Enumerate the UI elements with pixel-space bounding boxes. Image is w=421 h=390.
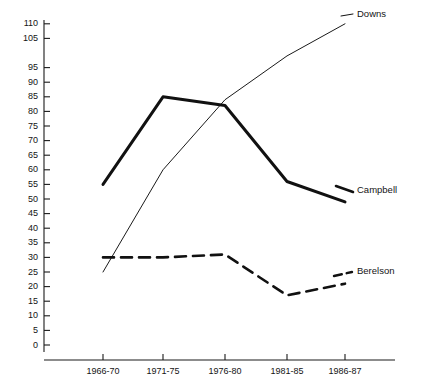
x-tick-label: 1986-87 [305, 367, 385, 376]
series-line-downs [103, 24, 345, 272]
y-tick-label: 60 [0, 165, 38, 174]
series-leader-downs [341, 14, 353, 16]
y-tick-label: 80 [0, 107, 38, 116]
y-tick-label: 55 [0, 180, 38, 189]
series-line-campbell [103, 97, 345, 202]
y-axis-ticks [44, 24, 50, 345]
y-tick-label: 15 [0, 297, 38, 306]
y-tick-label: 0 [0, 341, 38, 350]
y-tick-label: 75 [0, 122, 38, 131]
series-line-berelson [103, 254, 345, 295]
y-tick-label: 45 [0, 209, 38, 218]
x-axis [44, 354, 395, 360]
y-tick-label: 20 [0, 282, 38, 291]
series-leader-berelson [334, 272, 352, 276]
chart-plot-area [0, 0, 421, 390]
series-label-berelson: Berelson [357, 266, 395, 276]
y-tick-label: 95 [0, 63, 38, 72]
data-series-group [103, 14, 353, 295]
y-tick-label: 5 [0, 326, 38, 335]
y-tick-label: 50 [0, 195, 38, 204]
y-tick-label: 10 [0, 311, 38, 320]
y-tick-label: 35 [0, 238, 38, 247]
series-leader-campbell [336, 186, 353, 192]
y-tick-label: 65 [0, 151, 38, 160]
y-tick-label: 30 [0, 253, 38, 262]
line-chart: 0510152025303540455055606570758085909510… [0, 0, 421, 390]
y-tick-label: 85 [0, 92, 38, 101]
y-tick-label: 90 [0, 78, 38, 87]
x-axis-ticks [103, 354, 345, 360]
y-tick-label: 105 [0, 34, 38, 43]
y-tick-label: 40 [0, 224, 38, 233]
y-tick-label: 110 [0, 19, 38, 28]
y-axis [44, 20, 50, 352]
y-tick-label: 25 [0, 268, 38, 277]
series-label-campbell: Campbell [357, 185, 397, 195]
y-tick-label: 70 [0, 136, 38, 145]
series-label-downs: Downs [357, 9, 386, 19]
